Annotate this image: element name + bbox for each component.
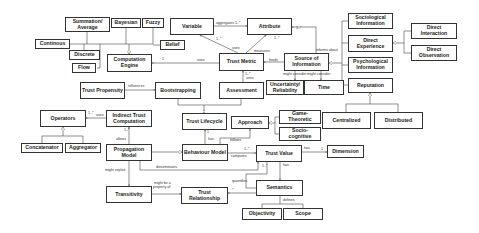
node-aggregator: Aggregator [65, 143, 101, 153]
edge-label: aggregates 1..* [216, 22, 240, 26]
node-game-theoretic: Game-Theoretic [279, 110, 321, 124]
node-trust-value: Trust Value [256, 145, 302, 162]
node-direct-interaction: Direct Interaction [411, 23, 457, 39]
node-trust-relationship: Trust Relationship [181, 187, 228, 204]
node-sociological-information: Sociological Information [348, 13, 393, 29]
edge-label: 1 [321, 148, 323, 152]
node-direct-experience: Direct Experience [348, 35, 393, 52]
node-socio-cognitive: Socio-cognitive [279, 127, 321, 141]
edge-label: informs about [316, 49, 338, 53]
edge-label: 1 [162, 58, 164, 62]
edge-label: property of [153, 186, 170, 190]
node-approach: Approach [231, 116, 269, 129]
edge-label: 1..* [88, 112, 93, 116]
node-trust-metric: Trust Metric [219, 53, 264, 71]
node-behaviour-model: Behaviour Model [182, 144, 228, 161]
node-trust-lifecycle: Trust Lifecycle [182, 113, 227, 130]
edge-label: computes [231, 155, 247, 159]
edge-label: 1..* [244, 148, 249, 152]
node-indirect-trust-computation: Indirect Trust Computation [106, 110, 152, 127]
node-belief: Belief [160, 40, 185, 50]
node-uncertainty-reliability: Uncertainty/ Reliability [266, 80, 304, 95]
edge-label: influences [128, 85, 144, 89]
edge-label: allows [116, 138, 126, 142]
edge-label: might consider [283, 73, 306, 77]
node-concatenator: Concatenator [21, 143, 63, 153]
node-bootstrapping: Bootstrapping [155, 82, 201, 99]
edge-label: 1..* [274, 37, 279, 41]
edge-label: follows [230, 139, 241, 143]
node-variable: Variable [170, 18, 214, 35]
edge-label: quantifies [232, 180, 247, 184]
edge-label: has [208, 138, 214, 142]
node-objectivity: Objectivity [242, 208, 282, 220]
edge-label: 1..* [296, 27, 301, 31]
node-semantics: Semantics [256, 180, 303, 196]
edge-label: might consider [307, 73, 330, 77]
node-operators: Operators [40, 110, 86, 127]
node-centralized: Centralized [322, 112, 371, 129]
node-summation-average: Summation/ Average [65, 17, 110, 32]
edge-label: has [283, 164, 289, 168]
node-direct-observation: Direct Observation [411, 45, 457, 61]
trust-model-diagram: Summation/ Average Bayesian Fuzzy Contin… [0, 0, 479, 233]
edge-label: uses [197, 59, 205, 63]
node-time: Time [304, 80, 344, 95]
node-continuous: Continous [35, 39, 70, 49]
edge-label: feeds [269, 59, 278, 63]
node-attribute: Attribute [247, 18, 292, 35]
edge-label: 1..* [216, 38, 221, 42]
edge-label: uses [246, 77, 254, 81]
node-bayesian: Bayesian [111, 18, 141, 28]
node-assessment: Assessment [219, 82, 264, 99]
edge-label: might exploit [105, 169, 125, 173]
node-fuzzy: Fuzzy [142, 18, 164, 28]
edge-label: uses [232, 47, 240, 51]
node-psychological-information: Psychological Information [348, 57, 393, 73]
edge-label: defines [283, 199, 295, 203]
edge-label: disseminates [156, 166, 177, 170]
node-scope: Scope [283, 208, 323, 220]
edge-label: 1..* [124, 129, 129, 133]
edge-label: uses [96, 114, 104, 118]
edge-label: * [232, 189, 233, 193]
edge-label: 1..* [262, 165, 267, 169]
node-trust-propensity: Trust Propensity [80, 82, 125, 99]
edge-label: has [304, 147, 310, 151]
node-dimension: Dimension [327, 145, 364, 158]
node-discrete: Discrete [69, 50, 100, 60]
edge-label: 1 [207, 131, 209, 135]
node-reputation: Reputation [348, 78, 393, 93]
node-source-of-information: Source of Information [284, 53, 329, 71]
node-flow: Flow [72, 63, 96, 73]
node-computation-engine: Computation Engine [107, 54, 152, 72]
edge-label: measures [254, 50, 270, 54]
node-distributed: Distributed [374, 112, 423, 129]
node-propagation-model: Propagation Model [106, 144, 152, 161]
node-transitivity: Transitivity [106, 186, 152, 203]
